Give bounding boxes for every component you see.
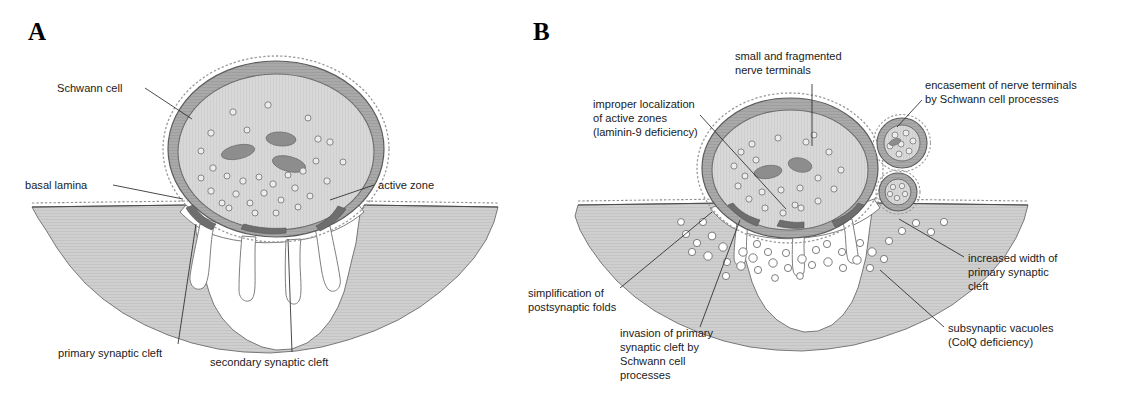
- vacuole: [839, 264, 846, 271]
- vesicle: [256, 174, 262, 180]
- panel-a: A: [25, 18, 498, 368]
- vacuole: [749, 254, 757, 262]
- label-subsynaptic-vacuoles-line2: (ColQ deficiency): [948, 336, 1033, 348]
- vacuole: [678, 219, 685, 226]
- vesicle: [762, 205, 768, 211]
- vesicle: [252, 210, 258, 216]
- vacuole: [940, 218, 947, 225]
- vacuole: [754, 266, 761, 273]
- vacuole: [812, 246, 819, 253]
- vesicle: [208, 188, 214, 194]
- vesicle: [838, 167, 844, 173]
- basal-lamina-line-b-left: [578, 199, 728, 201]
- vacuole: [704, 252, 712, 260]
- vacuole: [797, 273, 804, 280]
- vesicle: [247, 200, 253, 206]
- label-increased-width-line3: cleft: [968, 280, 988, 292]
- vesicle: [742, 173, 748, 179]
- vesicle: [887, 191, 892, 196]
- vesicle: [210, 165, 216, 171]
- vesicle: [233, 191, 239, 197]
- vesicle: [324, 178, 330, 184]
- basal-lamina-line-a: [32, 201, 188, 203]
- vesicle: [240, 178, 246, 184]
- vacuole: [782, 249, 789, 256]
- vesicle: [273, 210, 279, 216]
- vesicle: [890, 184, 895, 189]
- vesicle: [831, 186, 837, 192]
- vesicle: [315, 136, 321, 142]
- panel-b: B: [528, 18, 1077, 381]
- vesicle: [313, 158, 319, 164]
- vesicle: [906, 148, 912, 154]
- vesicle: [759, 189, 765, 195]
- vesicle: [892, 132, 898, 138]
- vesicle: [899, 183, 904, 188]
- vacuole: [772, 275, 779, 282]
- vacuole: [784, 264, 791, 271]
- label-improper-active-zones-line1: improper localization: [593, 98, 695, 110]
- vesicle: [815, 175, 821, 181]
- vacuole: [693, 239, 700, 246]
- label-simplification-folds-line2: postsynaptic folds: [528, 301, 617, 313]
- vacuole: [764, 248, 771, 255]
- vacuole: [885, 237, 892, 244]
- vesicle: [780, 210, 786, 216]
- label-invasion-cleft-line2: synaptic cleft by: [620, 341, 699, 353]
- label-encasement-line1: encasement of nerve terminals: [925, 79, 1077, 91]
- label-invasion-cleft-line1: invasion of primary: [620, 327, 714, 339]
- vacuole: [853, 256, 861, 264]
- label-subsynaptic-vacuoles-line1: subsynaptic vacuoles: [948, 322, 1054, 334]
- vacuole: [856, 239, 863, 246]
- label-improper-active-zones-line2: of active zones: [593, 112, 667, 124]
- vesicle: [307, 193, 313, 199]
- vesicle: [749, 141, 755, 147]
- vesicle: [815, 198, 821, 204]
- vesicle: [270, 181, 276, 187]
- label-secondary-synaptic-cleft: secondary synaptic cleft: [210, 356, 328, 368]
- vesicle: [244, 127, 250, 133]
- vacuole: [823, 240, 830, 247]
- label-schwann-cell: Schwann cell: [57, 82, 122, 94]
- neuromuscular-junction-diagram: A: [0, 0, 1133, 405]
- secondary-cleft-a-2: [239, 236, 256, 301]
- figure-root: A: [0, 0, 1133, 405]
- vesicle: [261, 190, 267, 196]
- label-increased-width-line2: primary synaptic: [968, 266, 1049, 278]
- vacuole: [838, 248, 845, 255]
- vesicle: [292, 185, 298, 191]
- vacuole: [798, 255, 806, 263]
- vesicle: [826, 149, 832, 155]
- vacuole: [927, 228, 934, 235]
- label-increased-width-line1: increased width of: [968, 252, 1058, 264]
- label-active-zone: active zone: [378, 179, 434, 191]
- label-primary-synaptic-cleft: primary synaptic cleft: [58, 347, 162, 359]
- vesicle: [198, 175, 204, 181]
- label-basal-lamina: basal lamina: [25, 179, 88, 191]
- vacuole: [688, 248, 695, 255]
- vesicle: [265, 102, 271, 108]
- vesicle: [226, 205, 232, 211]
- label-improper-active-zones-line3: (laminin-9 deficiency): [593, 126, 698, 138]
- vacuole: [769, 259, 777, 267]
- vesicle: [300, 168, 306, 174]
- vesicle: [910, 138, 916, 144]
- secondary-cleft-a-4: [315, 226, 340, 291]
- vesicle: [778, 187, 784, 193]
- vacuole: [912, 219, 919, 226]
- vacuole: [753, 240, 760, 247]
- vesicle: [798, 205, 804, 211]
- vesicle: [903, 130, 909, 136]
- vesicle: [327, 139, 333, 145]
- label-encasement-line2: by Schwann cell processes: [925, 93, 1059, 105]
- vesicle: [738, 149, 744, 155]
- basal-lamina-line-a-right: [362, 201, 498, 203]
- vacuole: [719, 243, 727, 251]
- panel-b-letter: B: [533, 18, 550, 45]
- nerve-terminal-a: [178, 74, 374, 230]
- vesicle: [305, 115, 311, 121]
- label-small-fragmented-nerve-terminals-line1: small and fragmented: [735, 50, 842, 62]
- vacuole: [866, 264, 873, 271]
- vesicle: [340, 159, 346, 165]
- vesicle: [230, 109, 236, 115]
